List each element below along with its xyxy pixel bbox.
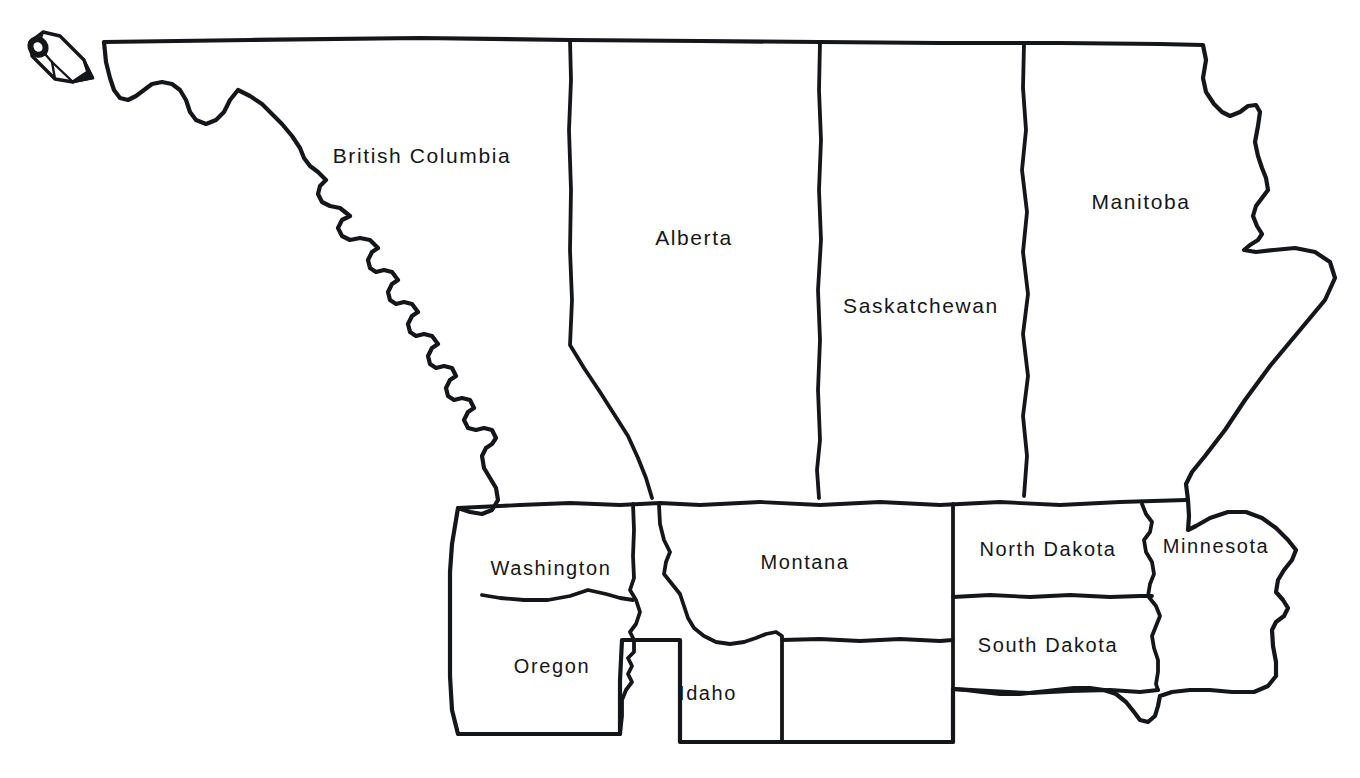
region-label-alberta: Alberta bbox=[655, 226, 733, 250]
border-alberta-saskatchewan bbox=[817, 42, 821, 498]
region-label-south-dakota: South Dakota bbox=[978, 634, 1118, 657]
border-canada-usa-49th-parallel bbox=[458, 500, 1186, 508]
pencil-icon bbox=[25, 32, 93, 82]
region-label-oregon: Oregon bbox=[514, 655, 590, 678]
border-washington-idaho bbox=[620, 504, 640, 734]
region-label-washington: Washington bbox=[491, 557, 612, 580]
map-graphic bbox=[0, 0, 1360, 778]
border-idaho-montana bbox=[659, 505, 782, 742]
region-label-idaho: Idaho bbox=[679, 682, 737, 705]
border-bc-alberta bbox=[569, 40, 652, 498]
border-saskatchewan-manitoba bbox=[1022, 44, 1028, 496]
region-label-north-dakota: North Dakota bbox=[979, 538, 1116, 561]
border-washington-oregon bbox=[482, 590, 633, 600]
region-label-minnesota: Minnesota bbox=[1163, 535, 1270, 558]
border-montana-south bbox=[782, 639, 953, 641]
region-label-manitoba: Manitoba bbox=[1091, 190, 1190, 214]
border-north-dakota-south-dakota bbox=[953, 595, 1152, 597]
region-label-british-columbia: British Columbia bbox=[333, 144, 512, 168]
region-label-saskatchewan: Saskatchewan bbox=[843, 294, 999, 318]
region-label-montana: Montana bbox=[760, 551, 849, 574]
outline-map: British ColumbiaAlbertaSaskatchewanManit… bbox=[0, 0, 1360, 778]
